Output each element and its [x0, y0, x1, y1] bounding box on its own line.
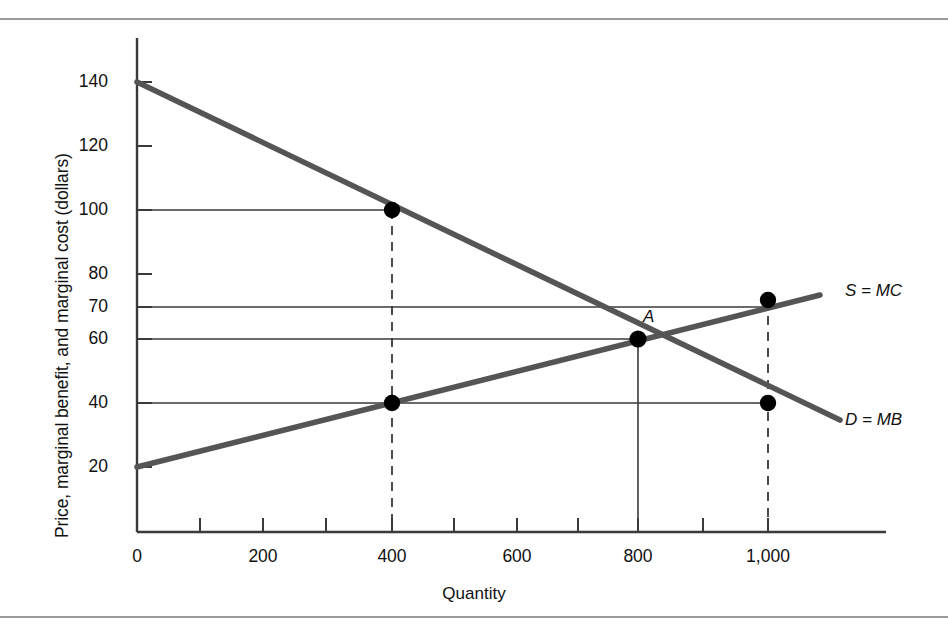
marker-s-1000-70	[760, 292, 776, 308]
marker-equilibrium-800-60	[629, 330, 646, 347]
y-tick-marks	[137, 82, 152, 467]
supply-curve-line	[137, 295, 820, 467]
guide-lines	[137, 210, 768, 532]
x-tick-label-200: 200	[223, 546, 303, 567]
y-tick-label-120: 120	[48, 135, 108, 156]
equilibrium-point-label: A	[643, 307, 654, 327]
figure-container: Price, marginal benefit, and marginal co…	[0, 0, 948, 628]
marker-s-400-40	[384, 395, 400, 411]
demand-curve-label: D = MB	[845, 410, 902, 430]
x-axis-title: Quantity	[0, 584, 948, 604]
y-tick-label-140: 140	[48, 71, 108, 92]
y-tick-label-60: 60	[48, 328, 108, 349]
axes	[137, 38, 886, 532]
x-tick-label-400: 400	[352, 546, 432, 567]
x-tick-marks	[200, 518, 768, 532]
x-tick-label-1000: 1,000	[728, 546, 808, 567]
y-tick-label-20: 20	[48, 456, 108, 477]
curves	[137, 82, 840, 467]
x-tick-label-0: 0	[97, 546, 177, 567]
chart-plot-area	[0, 0, 948, 628]
y-tick-label-100: 100	[48, 199, 108, 220]
y-tick-label-70: 70	[48, 296, 108, 317]
guide-lines-dashed	[392, 210, 768, 532]
demand-curve-line	[137, 82, 840, 420]
x-tick-label-800: 800	[598, 546, 678, 567]
supply-curve-label: S = MC	[845, 281, 902, 301]
marker-d-400-100	[384, 202, 400, 218]
marker-d-1000-40	[760, 395, 776, 411]
x-tick-label-600: 600	[477, 546, 557, 567]
y-tick-label-40: 40	[48, 392, 108, 413]
y-tick-label-80: 80	[48, 263, 108, 284]
